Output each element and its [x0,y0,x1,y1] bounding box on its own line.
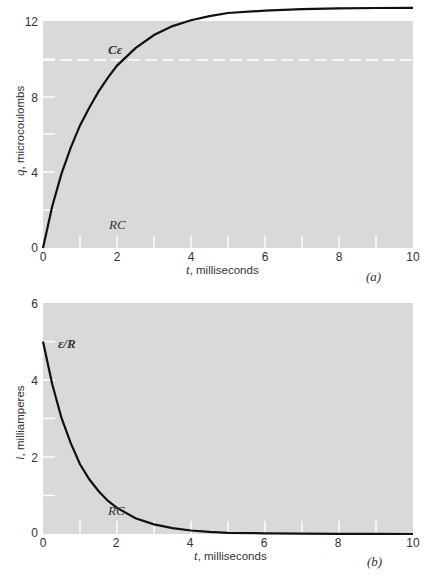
y-tick-2-b: 2 [31,451,38,465]
plot-area-b [43,303,413,534]
y-tick-8-a: 8 [31,91,38,105]
annotation-ce: Cε [108,42,123,57]
y-tick-12-a: 12 [25,15,39,29]
x-tick-6-b: 6 [261,536,268,550]
x-axis-label-a: t, milliseconds [186,262,259,277]
x-tick-2-b: 2 [113,536,120,550]
x-tick-10-a: 10 [406,250,420,264]
x-tick-4-b: 4 [187,536,194,550]
panel-b: 6 4 2 0 0 2 4 6 8 10 ε/R RC t, milliseco… [12,297,420,569]
x-tick-2-a: 2 [114,250,121,264]
y-tick-4-b: 4 [31,374,38,388]
y-axis-label-b: i, milliamperes [12,385,27,460]
x-tick-0-a: 0 [40,250,47,264]
x-tick-6-a: 6 [262,250,269,264]
x-tick-0-b: 0 [40,536,47,550]
y-tick-0-a: 0 [31,241,38,255]
x-tick-8-b: 8 [335,536,342,550]
x-tick-8-a: 8 [336,250,343,264]
x-axis-label-b: t, milliseconds [194,548,267,563]
annotation-er: ε/R [58,336,76,351]
y-axis-label-a: q, microcoulombs [12,86,27,176]
y-tick-6-b: 6 [31,297,38,311]
annotation-rc-a: RC [108,217,126,232]
panel-label-b: (b) [367,554,382,569]
y-tick-0-b: 0 [31,526,38,540]
panel-a: 12 8 4 0 0 2 4 6 8 10 Cε RC t, milliseco… [12,8,420,284]
panel-label-a: (a) [366,269,381,284]
plot-area-a [43,21,413,248]
y-tick-4-a: 4 [31,166,38,180]
annotation-rc-b: RC [107,503,125,518]
figure: 12 8 4 0 0 2 4 6 8 10 Cε RC t, milliseco… [0,0,436,579]
x-tick-10-b: 10 [406,536,420,550]
